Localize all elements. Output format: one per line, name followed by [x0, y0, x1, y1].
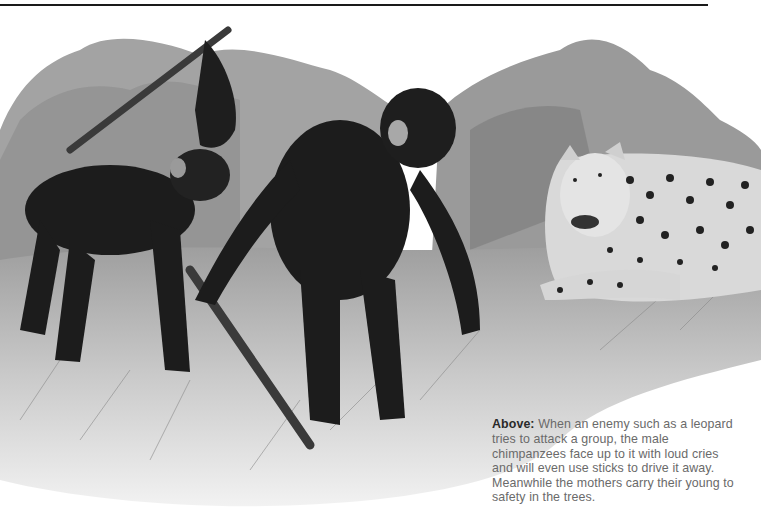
caption-lead: Above: — [492, 417, 535, 431]
caption: Above: When an enemy such as a leopard t… — [492, 417, 742, 505]
leopard — [540, 142, 761, 302]
